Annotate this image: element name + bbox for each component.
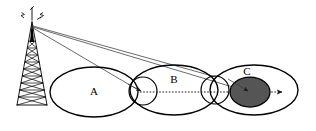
beam-upper-edge (33, 26, 216, 77)
handover-diagram: A B C (0, 0, 316, 131)
handover-circle-ab (129, 77, 157, 105)
mobile-station-node (230, 77, 270, 107)
cell-a-label: A (90, 85, 98, 97)
signal-beams (33, 26, 246, 91)
diagram-canvas: A B C (0, 0, 316, 131)
tower-cross-bracing (17, 41, 47, 105)
cell-b-label: B (170, 73, 177, 85)
beam-to-mobile-node (33, 27, 246, 91)
antenna-icon (21, 7, 44, 21)
transmitter-tower (17, 7, 47, 106)
beam-to-handover-ab (33, 28, 140, 91)
tower-rungs (18, 41, 46, 97)
cell-c-label: C (243, 65, 250, 77)
